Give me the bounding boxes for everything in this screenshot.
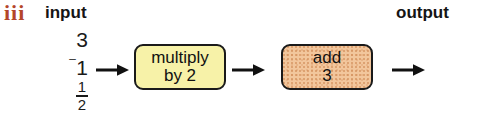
fraction-numerator: 1	[76, 79, 88, 94]
arrow-right-icon	[96, 62, 130, 78]
arrow-right-icon	[392, 62, 426, 78]
input-value-list: 3 ⁻1 1 2	[30, 28, 94, 112]
operation-box-add[interactable]: add 3	[281, 44, 373, 90]
function-machine-diagram: iii input output 3 ⁻1 1 2 multiply by 2	[0, 0, 480, 125]
operation-multiply-line1: multiply	[151, 49, 209, 67]
input-label: input	[45, 3, 87, 23]
negative-magnitude: 1	[76, 56, 88, 79]
input-value-fraction-row: 1 2	[30, 79, 94, 112]
output-label: output	[396, 3, 449, 23]
input-value-integer: 3	[30, 28, 94, 51]
fraction-denominator: 2	[76, 97, 88, 112]
input-value-negative: ⁻1	[30, 51, 94, 79]
arrow-right-icon	[232, 62, 266, 78]
operation-box-multiply[interactable]: multiply by 2	[134, 44, 226, 90]
operation-add-line1: add	[313, 49, 341, 67]
operation-add-line2: 3	[322, 67, 331, 85]
part-marker-iii: iii	[4, 2, 25, 24]
input-value-fraction: 1 2	[76, 79, 88, 112]
operation-multiply-line2: by 2	[164, 67, 196, 85]
